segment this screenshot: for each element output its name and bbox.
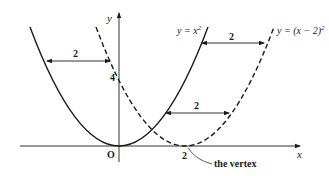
distance-label-upper-right: 2: [229, 31, 234, 42]
x-axis-label: x: [296, 148, 302, 160]
y-axis-label: y: [106, 12, 112, 24]
parabola-translation-diagram: y x O 4 2 2 2 2 y = x2 y = (x − 2)2 the …: [0, 0, 329, 176]
y-tick-label-4: 4: [110, 72, 115, 83]
distance-label-middle: 2: [194, 100, 199, 111]
curve-label-x-squared: y = x2: [176, 24, 202, 36]
origin-label: O: [107, 149, 115, 160]
distance-label-upper-left: 2: [73, 48, 78, 59]
x-tick-label-2: 2: [182, 150, 187, 161]
curve-label-shifted: y = (x − 2)2: [276, 24, 325, 37]
vertex-leader-line: [188, 148, 212, 164]
curve-y-equals-x-minus-2-squared: [96, 27, 274, 146]
vertex-annotation: the vertex: [214, 158, 256, 169]
